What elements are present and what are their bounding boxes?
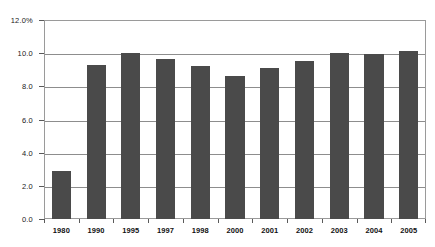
x-axis-tick — [183, 219, 218, 224]
x-axis-tick-label: 2004 — [357, 226, 392, 235]
bar-slot — [322, 20, 357, 219]
x-axis-tick-label: 1997 — [148, 226, 183, 235]
y-axis-tick-label: 10.0 — [18, 49, 33, 58]
x-axis-tick — [357, 219, 392, 224]
x-axis-end-tick — [425, 219, 426, 223]
y-axis: 12.0% 10.0 8.0 6.0 4.0 2.0 0.0 — [0, 20, 40, 219]
x-axis-tick — [79, 219, 114, 224]
x-axis-tick-label: 2005 — [391, 226, 426, 235]
bar-slot — [113, 20, 148, 219]
bar — [52, 171, 71, 219]
bar-chart: 12.0% 10.0 8.0 6.0 4.0 2.0 0.0 198019901… — [0, 0, 435, 247]
x-axis-tick — [391, 219, 426, 224]
y-axis-tick-label: 4.0 — [22, 148, 33, 157]
x-axis-ticks — [44, 219, 426, 224]
bar — [364, 54, 383, 219]
bar-slot — [79, 20, 114, 219]
x-axis-tick-label: 2000 — [218, 226, 253, 235]
bar-slot — [148, 20, 183, 219]
x-axis-tick — [148, 219, 183, 224]
x-axis-tick — [218, 219, 253, 224]
y-axis-tick-label: 8.0 — [22, 82, 33, 91]
x-axis-tick — [113, 219, 148, 224]
x-axis-tick — [322, 219, 357, 224]
bar-slot — [357, 20, 392, 219]
bar — [330, 53, 349, 219]
x-axis-tick-label: 1990 — [79, 226, 114, 235]
x-axis-tick-label: 2001 — [252, 226, 287, 235]
x-axis-tick-label: 1998 — [183, 226, 218, 235]
bar-slot — [287, 20, 322, 219]
bar — [260, 68, 279, 219]
x-axis-tick-label: 1995 — [113, 226, 148, 235]
y-axis-tick-label: 6.0 — [22, 115, 33, 124]
x-axis-tick-label: 1980 — [44, 226, 79, 235]
bar — [156, 59, 175, 219]
y-axis-tick-label: 12.0% — [11, 16, 33, 25]
bar-slot — [183, 20, 218, 219]
bar-slot — [44, 20, 79, 219]
bar-slot — [391, 20, 426, 219]
bar — [121, 53, 140, 219]
bar — [295, 61, 314, 219]
bar-slot — [252, 20, 287, 219]
bar — [191, 66, 210, 219]
x-axis-tick — [252, 219, 287, 224]
x-axis-tick — [44, 219, 79, 224]
x-axis-tick — [287, 219, 322, 224]
y-axis-tick-label: 0.0 — [22, 215, 33, 224]
bar — [225, 76, 244, 219]
x-axis: 1980199019951997199820002001200220032004… — [44, 226, 426, 235]
x-axis-tick-label: 2003 — [322, 226, 357, 235]
y-axis-tick-label: 2.0 — [22, 181, 33, 190]
bar — [399, 51, 418, 219]
bar-series — [44, 20, 426, 219]
x-axis-tick-label: 2002 — [287, 226, 322, 235]
bar — [87, 65, 106, 219]
bar-slot — [218, 20, 253, 219]
